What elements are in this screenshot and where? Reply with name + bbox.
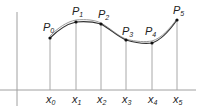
point-p3 [124,38,127,41]
label-p3: P3 [122,25,133,38]
point-p4 [150,41,153,44]
label-x4: x4 [147,93,158,106]
point-p0 [48,36,51,39]
label-p0: P0 [43,21,54,34]
label-p1: P1 [72,5,83,18]
point-p5 [175,18,178,21]
label-p4: P4 [145,25,156,38]
drop-lines [50,20,177,90]
point-p1 [74,20,77,23]
label-x3: x3 [121,93,132,106]
smooth-curve [50,19,177,42]
label-x2: x2 [96,93,107,106]
point-p2 [99,22,102,25]
label-p5: P5 [173,4,184,17]
label-x0: x0 [45,93,56,106]
label-x1: x1 [71,93,82,106]
interpolation-diagram: P0 P1 P2 P3 P4 P5 x0 x1 x2 x3 x4 x5 [0,0,199,110]
label-x5: x5 [172,93,183,106]
label-p2: P2 [98,8,109,21]
